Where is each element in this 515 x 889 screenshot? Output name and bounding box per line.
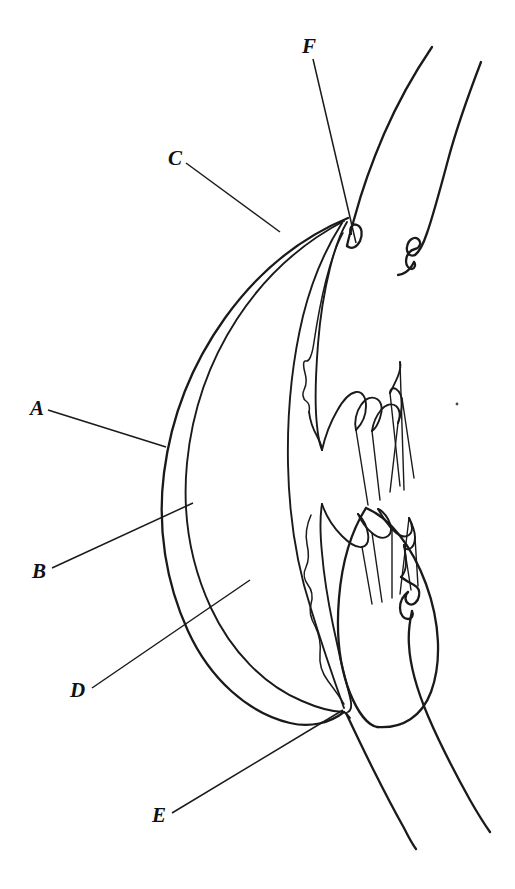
- sclera-outer-wall-upper: [347, 47, 432, 246]
- lens-posterior-surface: [366, 508, 438, 727]
- label-B: B: [31, 559, 46, 583]
- zonule-lower-1: [362, 547, 372, 604]
- vitreous-boundary-lower: [346, 713, 416, 849]
- diagram-canvas: A B C D E F: [0, 0, 515, 889]
- zonule-upper-5: [390, 393, 400, 486]
- ciliary-body-lower: [322, 504, 368, 547]
- zonule-upper-2: [372, 431, 380, 500]
- lens-anterior-surface: [338, 508, 377, 727]
- label-C: C: [168, 146, 183, 170]
- leader-line-E: [172, 710, 343, 813]
- leader-line-A: [48, 410, 166, 447]
- zonule-upper-1: [356, 430, 368, 505]
- ink-speck: [456, 403, 459, 406]
- ciliary-body-upper: [322, 392, 366, 450]
- label-A: A: [28, 396, 44, 420]
- leader-line-B: [52, 503, 193, 568]
- label-D: D: [69, 678, 85, 702]
- eye-anatomy-diagram: A B C D E F: [0, 0, 515, 889]
- zonule-upper-4: [400, 362, 404, 490]
- leader-line-F: [313, 59, 356, 243]
- sclera-outer-wall-lower: [409, 611, 490, 832]
- iris-anterior-surface-upper: [316, 222, 347, 450]
- leader-line-C: [186, 163, 280, 232]
- label-E: E: [151, 803, 166, 827]
- vitreous-boundary-upper: [415, 62, 481, 255]
- zonule-lower-2: [372, 533, 382, 602]
- label-F: F: [301, 34, 316, 58]
